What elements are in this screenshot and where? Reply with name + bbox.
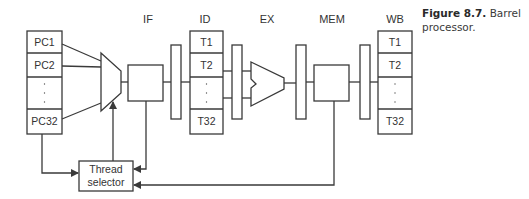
wire-pc1-mux: [62, 44, 101, 61]
thread-selector: Thread selector: [79, 161, 133, 191]
wire-pc32-to-selector: [42, 134, 78, 173]
stage-label-wb: WB: [386, 13, 404, 25]
wire-pc32-mux: [62, 103, 101, 119]
if-fetch-unit: [128, 65, 163, 101]
alu: [251, 62, 284, 106]
caption-text-line2: processor.: [422, 21, 475, 33]
multiplexer: [101, 53, 121, 111]
wire-pc2-mux: [62, 66, 101, 67]
pc-register-file: PC1 PC2 PC32: [27, 31, 62, 134]
id-register-file: T1 T2 T32: [190, 31, 223, 134]
wb-row-t2: T2: [389, 59, 401, 71]
pc-row-32: PC32: [31, 115, 57, 127]
pc-row-1: PC1: [34, 36, 55, 48]
thread-selector-line1: Thread: [89, 163, 122, 175]
figure-caption: Figure 8.7. Barrel processor.: [422, 6, 521, 34]
stage-label-id: ID: [200, 13, 211, 25]
pipeline-latch-ex-mem: [296, 45, 306, 119]
wb-register-file: T1 T2 T32: [378, 31, 412, 134]
thread-selector-line2: selector: [88, 176, 125, 188]
caption-text-line1: Barrel: [490, 7, 521, 19]
stage-label-ex: EX: [260, 13, 275, 25]
pipeline-latch-mem-wb: [360, 45, 370, 119]
pipeline-latch-id-ex: [232, 45, 242, 119]
id-row-t32: T32: [197, 115, 215, 127]
wb-row-t32: T32: [386, 115, 404, 127]
stage-label-mem: MEM: [319, 13, 345, 25]
pc-row-2: PC2: [34, 59, 55, 71]
stage-label-if: IF: [143, 13, 153, 25]
wb-row-t1: T1: [389, 36, 401, 48]
pipeline-latch-if-id: [171, 45, 181, 119]
caption-label: Figure 8.7.: [422, 7, 486, 19]
id-row-t2: T2: [200, 59, 212, 71]
memory-unit: [314, 65, 349, 101]
wire-if-to-selector: [134, 101, 146, 169]
id-row-t1: T1: [200, 36, 212, 48]
